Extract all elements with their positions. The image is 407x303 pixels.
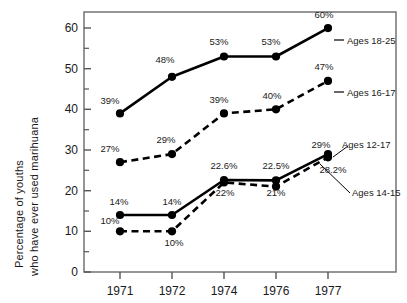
point-label: 14% — [162, 196, 182, 207]
point-label: 29% — [156, 134, 176, 145]
y-tick-label: 30 — [65, 143, 79, 157]
data-point — [116, 109, 124, 117]
data-point — [220, 178, 228, 186]
chart-container: 0 10 20 30 40 50 60 1971 1972 1974 1976 … — [0, 0, 407, 303]
point-label: 28.2% — [320, 164, 347, 175]
point-label: 22.5% — [263, 160, 290, 171]
y-axis-title-line1: Percentage of youths — [13, 160, 25, 268]
data-point — [272, 105, 280, 113]
point-label: 22% — [215, 187, 235, 198]
y-axis-title-line2: who have ever used marihuana — [28, 117, 40, 276]
x-axis-tick-labels: 1971 1972 1974 1976 1977 — [107, 284, 342, 298]
point-label: 22.6% — [211, 160, 238, 171]
point-label: 39% — [100, 95, 120, 106]
series-ages-18-25: 39% 48% 53% 53% 60% Ages 18-25 — [100, 9, 395, 118]
point-label: 21% — [266, 187, 286, 198]
y-axis-tick-labels: 0 10 20 30 40 50 60 — [65, 21, 79, 279]
point-label: 60% — [314, 9, 334, 20]
point-label: 14% — [109, 196, 129, 207]
x-tick-label: 1976 — [263, 284, 290, 298]
point-label: 53% — [209, 36, 229, 47]
series-label-ages-18-25: Ages 18-25 — [347, 35, 396, 46]
data-point — [168, 227, 176, 235]
series-ages-12-17: 14% 14% 22.6% 22.5% 29% Ages 12-17 — [109, 139, 390, 219]
data-point — [168, 150, 176, 158]
series-label-ages-12-17: Ages 12-17 — [342, 139, 391, 150]
x-tick-label: 1972 — [159, 284, 186, 298]
y-tick-label: 10 — [65, 224, 79, 238]
point-label: 47% — [314, 61, 334, 72]
point-label: 53% — [261, 36, 281, 47]
x-tick-label: 1971 — [107, 284, 134, 298]
data-point — [220, 52, 228, 60]
y-tick-label: 0 — [71, 265, 78, 279]
data-point — [324, 153, 332, 161]
x-axis-ticks — [120, 272, 328, 279]
data-point — [168, 73, 176, 81]
point-label: 10% — [164, 237, 184, 248]
y-tick-label: 60 — [65, 21, 79, 35]
point-label: 40% — [262, 90, 282, 101]
point-label: 10% — [100, 215, 120, 226]
data-point — [324, 77, 332, 85]
line-chart: 0 10 20 30 40 50 60 1971 1972 1974 1976 … — [0, 0, 407, 303]
series-ages-16-17: 27% 29% 39% 40% 47% Ages 16-17 — [100, 61, 395, 166]
data-point — [168, 211, 176, 219]
data-point — [116, 227, 124, 235]
point-label: 29% — [311, 139, 331, 150]
data-point — [324, 24, 332, 32]
series-label-ages-16-17: Ages 16-17 — [347, 87, 396, 98]
series-label-ages-14-15: Ages 14-15 — [352, 187, 401, 198]
y-tick-label: 40 — [65, 102, 79, 116]
y-tick-label: 20 — [65, 184, 79, 198]
x-tick-label: 1977 — [315, 284, 342, 298]
point-label: 39% — [209, 94, 229, 105]
data-point — [116, 158, 124, 166]
series-ages-14-15: 10% 10% 22% 21% 28.2% Ages 14-15 — [100, 153, 400, 248]
data-point — [272, 52, 280, 60]
data-point — [220, 109, 228, 117]
y-tick-label: 50 — [65, 62, 79, 76]
y-axis-major-ticks — [84, 28, 91, 272]
point-label: 48% — [155, 54, 175, 65]
x-tick-label: 1974 — [211, 284, 238, 298]
point-label: 27% — [100, 143, 120, 154]
